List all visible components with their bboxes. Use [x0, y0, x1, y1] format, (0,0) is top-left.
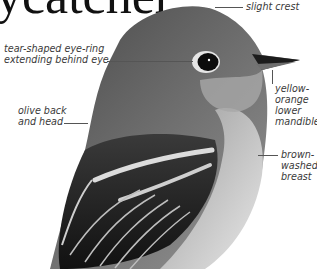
crest-leader-line — [215, 7, 243, 8]
eye-ring-label: tear-shaped eye-ring extending behind ey… — [4, 43, 109, 65]
breast-label: brown- washed breast — [281, 149, 317, 182]
crest-label: slight crest — [246, 1, 299, 12]
eye — [198, 53, 219, 71]
back-label: olive back and head — [18, 105, 67, 127]
mandible-leader-line — [272, 70, 273, 84]
flycatcher-illustration — [0, 0, 317, 269]
back-leader-line — [64, 123, 88, 124]
breast-leader-line — [258, 155, 278, 156]
field-guide-illustration: ycatcher — [0, 0, 317, 269]
eye-ring-leader-line — [107, 61, 193, 62]
mandible-label: yellow- orange lower mandible — [275, 83, 317, 127]
